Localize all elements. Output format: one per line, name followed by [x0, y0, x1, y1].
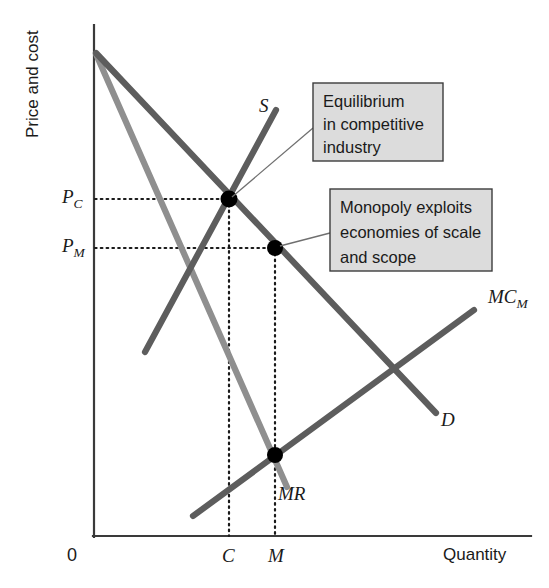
point-competitive-equilibrium [221, 191, 238, 208]
callout-monopoly-line3: and scope [340, 248, 416, 266]
chart-canvas: Price and cost Quantity 0 PC PM C M [0, 0, 549, 588]
x-tick-label-m: M [267, 545, 285, 566]
price-c-subscript: C [74, 196, 84, 211]
x-axis-title: Quantity [443, 545, 507, 564]
economics-supply-demand-figure: Price and cost Quantity 0 PC PM C M [0, 0, 549, 588]
callout-equilibrium-line1: Equilibrium [323, 92, 405, 110]
curve-mc-base: MC [487, 286, 517, 307]
curve-label-s: S [259, 95, 269, 116]
point-mr-equals-mc [267, 447, 283, 463]
y-tick-label-price-c: PC [61, 186, 84, 211]
y-axis-title: Price and cost [23, 30, 42, 138]
svg-text:PM: PM [61, 235, 86, 260]
callout-monopoly: Monopoly exploits economies of scale and… [330, 189, 492, 271]
leader-line-monopoly [280, 233, 330, 246]
svg-text:MCM: MCM [487, 286, 529, 311]
price-m-base: P [61, 235, 74, 256]
curve-mc-subscript: M [516, 296, 529, 311]
callout-equilibrium-line2: in competitive [323, 115, 424, 133]
point-monopoly-price [267, 240, 283, 256]
curve-label-d: D [440, 409, 455, 430]
curve-label-mc-m: MCM [487, 286, 529, 311]
x-tick-label-c: C [222, 545, 235, 566]
y-tick-label-price-m: PM [61, 235, 86, 260]
origin-label: 0 [67, 545, 77, 565]
svg-text:PC: PC [61, 186, 84, 211]
curve-label-mr: MR [277, 483, 306, 504]
callout-monopoly-line2: economies of scale [340, 223, 481, 241]
callout-equilibrium-line3: industry [323, 138, 382, 156]
callout-monopoly-line1: Monopoly exploits [340, 198, 472, 216]
price-c-base: P [61, 186, 74, 207]
callout-equilibrium: Equilibrium in competitive industry [313, 83, 443, 161]
price-m-subscript: M [73, 245, 86, 260]
